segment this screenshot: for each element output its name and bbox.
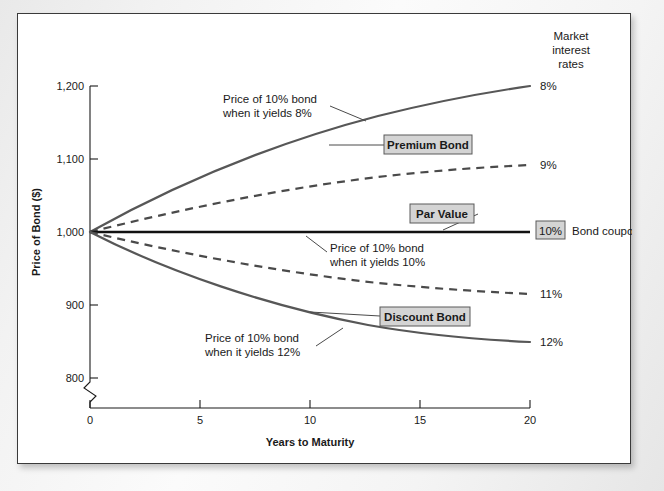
- bond-coupon-note: Bond coupon: [572, 225, 632, 237]
- annotation-yield8-line2: when it yields 8%: [222, 107, 312, 119]
- x-axis-title: Years to Maturity: [266, 436, 356, 448]
- y-tick-label-1000: 1,000: [56, 226, 84, 238]
- premium-bond-label: Premium Bond: [387, 139, 469, 151]
- x-tick-label-5: 5: [197, 414, 203, 426]
- rate-label-9: 9%: [540, 159, 557, 171]
- y-tick-label-1200: 1,200: [56, 80, 84, 92]
- annotation-yield8-line1: Price of 10% bond: [223, 93, 317, 105]
- market-rates-header-line2: interest: [552, 44, 591, 56]
- market-rates-header-line3: rates: [558, 58, 584, 70]
- figure-page: 1,200 1,100 1,000 900 800 0 5 10 15 20 P…: [0, 0, 664, 491]
- y-tick-label-900: 900: [66, 299, 84, 311]
- y-tick-label-1100: 1,100: [56, 153, 84, 165]
- rate-label-11: 11%: [540, 288, 562, 300]
- x-tick-label-0: 0: [87, 414, 93, 426]
- annotation-yield12-leader: [316, 328, 343, 346]
- discount-bond-label: Discount Bond: [384, 311, 466, 323]
- x-tick-label-10: 10: [304, 414, 316, 426]
- market-rates-header-line1: Market: [553, 30, 589, 42]
- rate-label-8: 8%: [540, 80, 557, 92]
- annotation-yield10-leader: [306, 236, 327, 252]
- figure-panel: 1,200 1,100 1,000 900 800 0 5 10 15 20 P…: [17, 13, 631, 464]
- par-value-label: Par Value: [416, 208, 468, 220]
- rate-label-12: 12%: [540, 336, 563, 348]
- x-tick-label-20: 20: [524, 414, 536, 426]
- y-tick-label-800: 800: [66, 372, 84, 384]
- annotation-yield12-line2: when it yields 12%: [204, 346, 300, 358]
- annotation-yield8-leader: [330, 106, 366, 121]
- annotation-yield10-line1: Price of 10% bond: [330, 242, 424, 254]
- annotation-yield10-line2: when it yields 10%: [329, 256, 425, 268]
- x-tick-label-15: 15: [414, 414, 426, 426]
- rate-label-10: 10%: [539, 225, 562, 237]
- bond-price-chart: 1,200 1,100 1,000 900 800 0 5 10 15 20 P…: [18, 14, 632, 465]
- annotation-yield12-line1: Price of 10% bond: [205, 332, 299, 344]
- y-axis-title: Price of Bond ($): [30, 188, 42, 276]
